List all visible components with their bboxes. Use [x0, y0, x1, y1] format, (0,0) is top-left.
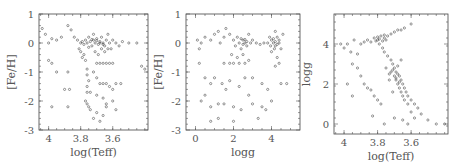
data-point [86, 68, 88, 70]
data-point [108, 85, 110, 87]
data-point [273, 48, 275, 50]
data-point [340, 43, 342, 45]
data-point [380, 103, 382, 105]
data-point [232, 39, 234, 41]
data-point [240, 109, 242, 111]
data-point [115, 83, 117, 85]
data-point [420, 113, 422, 115]
data-point [112, 62, 114, 64]
data-point [64, 88, 66, 90]
x-tick-label: 4 [45, 133, 51, 144]
y-axis-label: [Fe/H] [152, 54, 165, 89]
data-point [397, 73, 399, 75]
data-point [248, 59, 250, 61]
y-tick-label: 0 [28, 38, 34, 49]
data-point [108, 62, 110, 64]
data-point [278, 62, 280, 64]
data-point [267, 88, 269, 90]
x-tick-label: 2 [230, 133, 236, 144]
data-point [76, 39, 78, 41]
data-point [70, 29, 72, 31]
data-point [118, 45, 120, 47]
data-point [363, 83, 365, 85]
data-point [378, 43, 380, 45]
data-point [373, 37, 375, 39]
data-point [94, 51, 96, 53]
data-point [280, 48, 282, 50]
data-point [78, 48, 80, 50]
data-point [105, 39, 107, 41]
data-point [196, 39, 198, 41]
data-point [86, 103, 88, 105]
x-tick-label: 3.6 [403, 137, 419, 148]
data-point [392, 69, 394, 71]
data-point [210, 120, 212, 122]
data-point [250, 42, 252, 44]
data-point [402, 83, 404, 85]
data-point [382, 47, 384, 49]
data-point [141, 65, 143, 67]
data-point [366, 87, 368, 89]
data-point [270, 51, 272, 53]
data-point [397, 65, 399, 67]
data-point [217, 30, 219, 32]
data-point [395, 71, 397, 73]
data-point [84, 100, 86, 102]
data-point [92, 117, 94, 119]
scatter-panel-3: 43.83.6420log(Teff)logg [300, 14, 448, 163]
data-point [94, 42, 96, 44]
data-point [81, 56, 83, 58]
data-point [88, 106, 90, 108]
data-point [56, 39, 58, 41]
data-point [236, 36, 238, 38]
y-tick-label: 2 [323, 79, 329, 90]
data-point [405, 91, 407, 93]
data-point [92, 33, 94, 35]
data-point [259, 43, 261, 45]
data-point [373, 95, 375, 97]
data-point [272, 38, 274, 40]
data-point [89, 109, 91, 111]
data-point [105, 106, 107, 108]
data-point [110, 48, 112, 50]
data-point [99, 42, 101, 44]
data-point [115, 42, 117, 44]
scatter-panel-2: 02410-1-2-3logg[Fe/H] [152, 9, 300, 160]
data-point [382, 40, 384, 42]
data-point [375, 40, 377, 42]
data-point [377, 99, 379, 101]
data-point [269, 36, 271, 38]
data-point [99, 83, 101, 85]
data-point [86, 42, 88, 44]
data-point [198, 48, 200, 50]
data-point [274, 30, 276, 32]
data-point [73, 36, 75, 38]
data-point [51, 62, 53, 64]
data-point [387, 55, 389, 57]
axes-frame [334, 14, 448, 134]
data-point [210, 39, 212, 41]
data-point [44, 33, 46, 35]
data-point [278, 39, 280, 41]
y-tick-label: -2 [171, 96, 181, 107]
data-point [246, 41, 248, 43]
data-point [232, 62, 234, 64]
data-point [84, 39, 86, 41]
y-tick-label: -2 [24, 96, 34, 107]
y-tick-label: -1 [24, 67, 34, 78]
data-point [398, 87, 400, 89]
data-point [96, 94, 98, 96]
data-point [392, 63, 394, 65]
data-point [274, 41, 276, 43]
data-point [100, 48, 102, 50]
data-point [383, 34, 385, 36]
data-point [263, 42, 265, 44]
data-point [400, 79, 402, 81]
data-point [383, 37, 385, 39]
y-tick-label: 1 [28, 9, 34, 20]
y-axis-label: [Fe/H] [5, 54, 18, 89]
data-point [217, 117, 219, 119]
data-point [210, 106, 212, 108]
data-point [385, 67, 387, 69]
data-point [83, 54, 85, 56]
